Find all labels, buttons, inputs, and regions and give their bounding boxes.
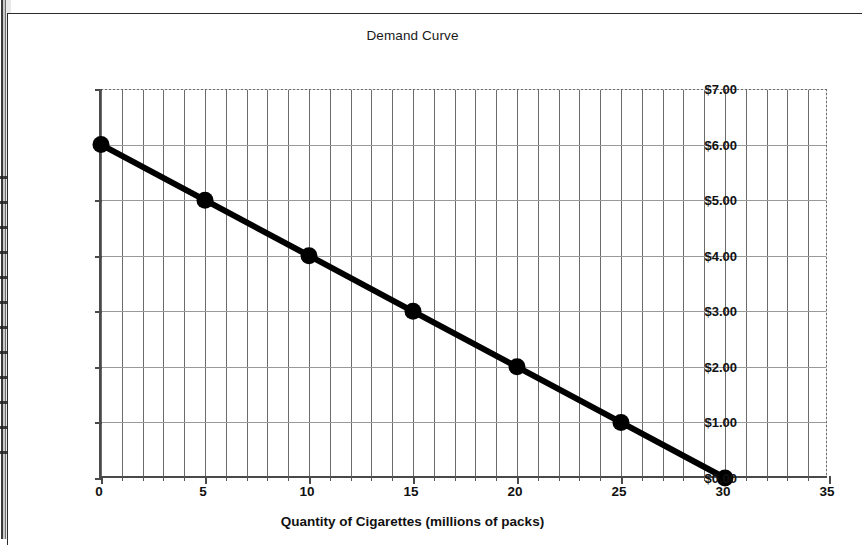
page-edge-tick-marks xyxy=(0,176,7,476)
y-axis-tick-label: $3.00 xyxy=(677,304,737,319)
x-axis-tick-label: 5 xyxy=(181,484,225,499)
data-point-marker xyxy=(613,414,630,431)
data-point-marker xyxy=(405,303,422,320)
y-axis-tick-label: $1.00 xyxy=(677,415,737,430)
x-axis-tick-label: 20 xyxy=(493,484,537,499)
data-point-marker xyxy=(301,247,318,264)
data-point-marker xyxy=(509,358,526,375)
y-axis-tick-label: $4.00 xyxy=(677,248,737,263)
x-axis-tick-label: 30 xyxy=(701,484,745,499)
x-axis-title: Quantity of Cigarettes (millions of pack… xyxy=(0,514,847,529)
x-axis-tick-label: 15 xyxy=(389,484,433,499)
data-point-marker xyxy=(197,192,214,209)
y-axis-tick-label: $7.00 xyxy=(677,82,737,97)
y-axis-tick-label: $2.00 xyxy=(677,359,737,374)
x-axis-major-tick xyxy=(829,476,831,484)
chart-title: Demand Curve xyxy=(0,28,847,43)
x-axis-tick-label: 10 xyxy=(285,484,329,499)
y-axis-tick-label: $6.00 xyxy=(677,137,737,152)
y-axis-tick-label: $5.00 xyxy=(677,193,737,208)
x-axis-tick-label: 0 xyxy=(77,484,121,499)
x-axis-tick-label: 25 xyxy=(597,484,641,499)
x-axis-tick-label: 35 xyxy=(805,484,849,499)
data-point-marker xyxy=(93,136,110,153)
